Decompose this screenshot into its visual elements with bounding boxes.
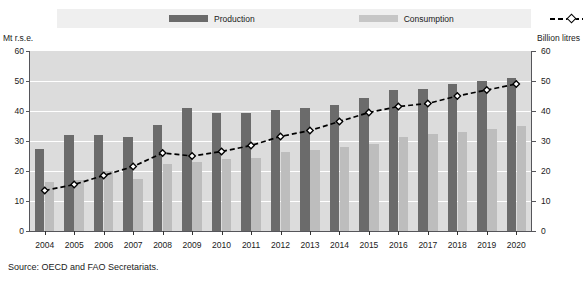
x-axis-tick-mark (428, 231, 429, 235)
x-axis-tick-label: 2018 (442, 240, 472, 250)
bioethanol-data-point (159, 150, 166, 157)
bioethanol-data-point (454, 93, 461, 100)
x-axis-tick-mark (339, 231, 340, 235)
left-axis-tick-mark (26, 81, 30, 82)
left-axis-tick-mark (26, 141, 30, 142)
chart-figure: Production Consumption Bio-ethanol produ… (0, 0, 583, 281)
legend-item-bioethanol: Bio-ethanol production (right scale) (550, 14, 583, 24)
legend-label-production: Production (214, 14, 255, 24)
bioethanol-data-point (425, 100, 432, 107)
right-axis-tick-label: 40 (541, 107, 565, 116)
x-axis-tick-label: 2019 (472, 240, 502, 250)
bioethanol-data-point (484, 87, 491, 94)
bioethanol-data-point (277, 133, 284, 140)
right-axis-tick-label: 50 (541, 77, 565, 86)
bioethanol-data-point (336, 118, 343, 125)
x-axis-tick-mark (104, 231, 105, 235)
left-axis-tick-mark (26, 231, 30, 232)
x-axis-tick-label: 2011 (236, 240, 266, 250)
bioethanol-data-point (248, 142, 255, 149)
left-axis-tick-label: 10 (2, 197, 24, 206)
x-axis-tick-label: 2012 (266, 240, 296, 250)
source-note: Source: OECD and FAO Secretariats. (8, 262, 159, 272)
right-axis-caption: Billion litres (537, 33, 580, 43)
left-axis-tick-label: 40 (2, 107, 24, 116)
right-axis-tick-mark (532, 141, 536, 142)
legend-label-consumption: Consumption (404, 14, 454, 24)
x-axis-tick-label: 2014 (324, 240, 354, 250)
left-axis-tick-label: 20 (2, 167, 24, 176)
x-axis-tick-mark (222, 231, 223, 235)
x-axis-tick-mark (310, 231, 311, 235)
x-axis-tick-mark (457, 231, 458, 235)
x-axis-tick-label: 2013 (295, 240, 325, 250)
x-axis-tick-label: 2017 (413, 240, 443, 250)
bioethanol-data-point (513, 81, 520, 88)
x-axis-tick-mark (516, 231, 517, 235)
bioethanol-data-point (395, 103, 402, 110)
x-axis-tick-label: 2005 (59, 240, 89, 250)
left-axis-tick-mark (26, 51, 30, 52)
x-axis-tick-mark (74, 231, 75, 235)
right-axis-tick-label: 0 (541, 227, 565, 236)
consumption-swatch (359, 15, 398, 22)
bioethanol-line-layer (30, 51, 531, 231)
cropped-title-remnant (0, 0, 583, 5)
left-axis-tick-label: 50 (2, 77, 24, 86)
bioethanol-data-point (189, 153, 196, 160)
x-axis-tick-label: 2015 (354, 240, 384, 250)
x-axis-tick-mark (163, 231, 164, 235)
bioethanol-data-point (130, 163, 137, 170)
left-axis-tick-mark (26, 111, 30, 112)
right-axis-tick-mark (532, 111, 536, 112)
x-axis-tick-mark (398, 231, 399, 235)
left-axis-caption: Mt r.s.e. (3, 33, 33, 43)
right-axis-tick-label: 30 (541, 137, 565, 146)
legend-item-consumption: Consumption (359, 14, 454, 24)
diamond-marker-icon (566, 14, 576, 24)
right-axis-tick-mark (532, 171, 536, 172)
right-axis-tick-mark (532, 81, 536, 82)
x-axis-tick-label: 2006 (89, 240, 119, 250)
legend-item-production: Production (169, 14, 255, 24)
bioethanol-data-point (100, 172, 107, 179)
right-axis-tick-label: 10 (541, 197, 565, 206)
right-axis-tick-mark (532, 231, 536, 232)
right-axis-tick-label: 60 (541, 47, 565, 56)
left-axis-tick-label: 30 (2, 137, 24, 146)
x-axis-tick-mark (487, 231, 488, 235)
x-axis-tick-label: 2004 (30, 240, 60, 250)
chart-legend: Production Consumption Bio-ethanol produ… (57, 9, 531, 28)
x-axis-tick-mark (192, 231, 193, 235)
left-axis-tick-mark (26, 171, 30, 172)
x-axis-tick-label: 2016 (383, 240, 413, 250)
bioethanol-data-point (71, 181, 78, 188)
x-axis-tick-label: 2008 (148, 240, 178, 250)
x-axis-tick-mark (133, 231, 134, 235)
production-swatch (169, 15, 208, 22)
x-axis-tick-mark (369, 231, 370, 235)
left-axis-tick-label: 0 (2, 227, 24, 236)
bioethanol-data-point (366, 109, 373, 116)
bioethanol-data-point (307, 127, 314, 134)
x-axis-tick-label: 2010 (207, 240, 237, 250)
x-axis-tick-label: 2009 (177, 240, 207, 250)
plot-area (30, 51, 531, 231)
bioethanol-line-swatch (550, 14, 583, 23)
x-axis-tick-mark (251, 231, 252, 235)
x-axis-tick-mark (45, 231, 46, 235)
x-axis-tick-label: 2020 (501, 240, 531, 250)
bioethanol-data-point (41, 187, 48, 194)
right-axis-tick-mark (532, 201, 536, 202)
left-axis-tick-label: 60 (2, 47, 24, 56)
right-axis-tick-label: 20 (541, 167, 565, 176)
left-axis-tick-mark (26, 201, 30, 202)
x-axis-tick-mark (281, 231, 282, 235)
right-axis-tick-mark (532, 51, 536, 52)
x-axis-tick-label: 2007 (118, 240, 148, 250)
bioethanol-data-point (218, 148, 225, 155)
